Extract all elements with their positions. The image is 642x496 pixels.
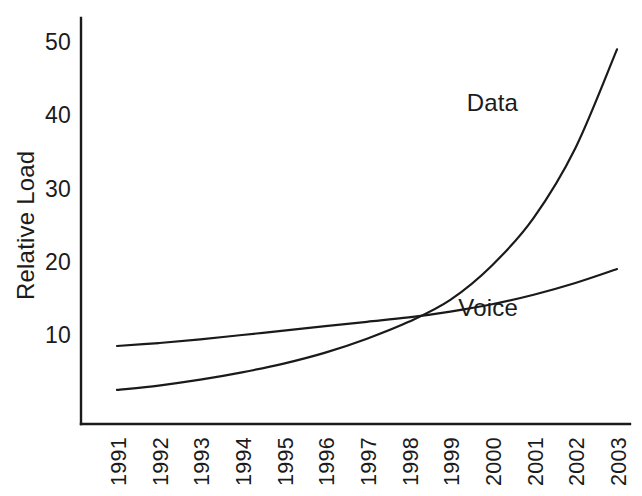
x-tick-label: 1991 [109,437,131,486]
x-tick-label: 2000 [484,437,506,486]
y-tick-label: 50 [27,31,71,54]
y-tick-label: 10 [27,324,71,347]
x-tick-label: 2003 [609,437,631,486]
x-tick-label: 1995 [276,437,298,486]
series-annotation-voice: Voice [458,296,518,320]
series-group [117,49,617,390]
x-tick-label: 1998 [401,437,423,486]
x-tick-label: 1994 [234,437,256,486]
x-tick-label: 1997 [359,437,381,486]
x-tick-label: 2001 [526,437,548,486]
series-annotation-data: Data [467,91,519,115]
x-tick-label: 2002 [567,437,589,486]
x-tick-label: 1993 [192,437,214,486]
x-tick-label: 1996 [317,437,339,486]
series-line-data [117,49,617,390]
x-tick-label: 1992 [151,437,173,486]
axes-group [81,18,630,424]
y-axis-title: Relative Load [14,151,38,300]
x-tick-label: 1999 [442,437,464,486]
relative-load-chart: Relative Load 1020304050 199119921993199… [0,0,642,496]
chart-plot-area [0,0,642,496]
y-tick-label: 30 [27,178,71,201]
y-tick-label: 40 [27,104,71,127]
y-tick-label: 20 [27,251,71,274]
series-line-voice [117,269,617,346]
